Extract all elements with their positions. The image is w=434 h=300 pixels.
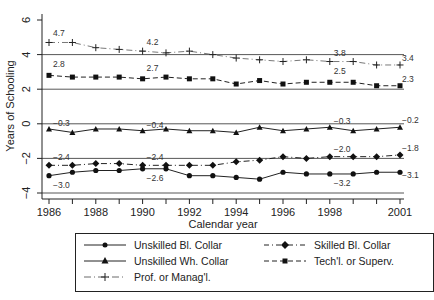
series-line (49, 75, 400, 85)
data-label: 2.8 (53, 59, 65, 69)
data-label: −0.2 (402, 115, 419, 125)
legend-item-skilled-bl-collar: Skilled Bl. Collar (264, 239, 390, 251)
x-tick-label: 1988 (84, 206, 108, 218)
x-axis-title: Calendar year (188, 218, 257, 230)
y-tick-label: 0 (20, 121, 32, 127)
y-tick-label: 4 (20, 52, 32, 58)
data-label: 4.2 (147, 37, 159, 47)
legend-item-prof-or-managl: Prof. or Manag'l. (84, 271, 211, 283)
triangle-marker-icon (84, 257, 126, 265)
x-tick-label: 2001 (388, 206, 412, 218)
plus-marker-icon (84, 273, 126, 281)
data-label: −2.6 (147, 173, 164, 183)
x-tick-label: 1992 (177, 206, 201, 218)
legend-item-unskilled-bl-collar: Unskilled Bl. Collar (84, 239, 222, 251)
circle-marker-icon (84, 241, 126, 249)
data-label: −2.4 (147, 152, 164, 162)
data-label: 2.7 (147, 63, 159, 73)
y-tick-label: 6 (20, 17, 32, 23)
series-line (49, 42, 400, 64)
data-label: −3.0 (53, 180, 70, 190)
data-label: −3.2 (334, 178, 351, 188)
y-tick-label: −4 (20, 187, 32, 200)
data-label: −3.1 (402, 170, 419, 180)
data-label: 3.4 (402, 53, 414, 63)
x-tick-label: 1998 (318, 206, 342, 218)
legend-item-unskilled-wh-collar: Unskilled Wh. Collar (84, 255, 229, 267)
legend-item-techl-or-superv: Tech'l. or Superv. (264, 255, 394, 267)
data-label: 4.7 (53, 28, 65, 38)
chart-legend: Unskilled Bl. Collar Skilled Bl. Collar … (75, 233, 434, 292)
x-tick-label: 1990 (130, 206, 154, 218)
data-label: −0.4 (147, 120, 164, 130)
series-line (49, 155, 400, 165)
series-line (49, 127, 400, 132)
data-label: −0.3 (53, 118, 70, 128)
data-label: 2.3 (402, 74, 414, 84)
diamond-marker-icon (264, 241, 306, 249)
y-tick-label: 2 (20, 86, 32, 92)
y-tick-label: −2 (20, 152, 32, 165)
square-marker-icon (264, 257, 306, 265)
data-label: −2.4 (53, 152, 70, 162)
x-tick-label: 1986 (37, 206, 61, 218)
data-label: 3.8 (334, 48, 346, 58)
data-label: 2.5 (334, 66, 346, 76)
data-label: −2.0 (334, 144, 351, 154)
x-tick-label: 1996 (271, 206, 295, 218)
data-label: −1.8 (402, 143, 419, 153)
y-axis-title: Years of Schooling (4, 60, 16, 151)
data-label: −0.3 (334, 116, 351, 126)
x-tick-label: 1994 (224, 206, 248, 218)
